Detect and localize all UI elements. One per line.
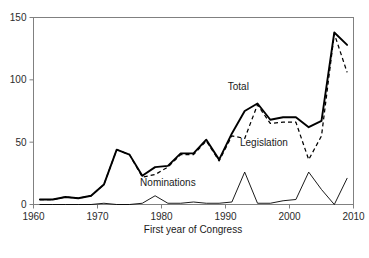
y-tick-label-150: 150 (10, 12, 27, 23)
x-tick-label-2010: 2010 (342, 211, 365, 222)
series-annotations: TotalLegislationNominations (140, 81, 288, 188)
y-tick-label-0: 0 (21, 199, 27, 210)
x-axis-ticks (34, 205, 354, 209)
y-axis-ticks (30, 18, 34, 205)
x-axis-tick-labels: 196019701980199020002010 (22, 211, 365, 222)
y-tick-label-50: 50 (15, 137, 27, 148)
chart-container: 050100150 196019701980199020002010 Total… (0, 0, 369, 258)
line-chart: 050100150 196019701980199020002010 Total… (0, 0, 369, 258)
series-line-legislation (40, 34, 347, 200)
series-line-total (40, 32, 347, 199)
x-tick-label-1960: 1960 (22, 211, 45, 222)
x-tick-label-1980: 1980 (150, 211, 173, 222)
series-label-legislation: Legislation (240, 137, 288, 148)
x-axis-title: First year of Congress (144, 224, 242, 235)
x-tick-label-1990: 1990 (214, 211, 237, 222)
x-tick-label-1970: 1970 (86, 211, 109, 222)
y-tick-label-100: 100 (10, 74, 27, 85)
x-tick-label-2000: 2000 (278, 211, 301, 222)
series-label-nominations: Nominations (140, 177, 196, 188)
series-label-total: Total (228, 81, 249, 92)
y-axis-tick-labels: 050100150 (10, 12, 27, 210)
